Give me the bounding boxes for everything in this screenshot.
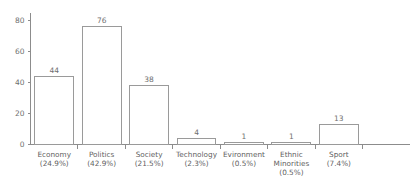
category-label: (24.9%) (40, 159, 69, 168)
x-axis (31, 145, 411, 149)
category-axis-labels: Economy(24.9%)Politics(42.9%)Society(21.… (37, 150, 351, 177)
bar (177, 138, 216, 144)
category-label: Sport (329, 150, 349, 159)
bar-value-label: 76 (97, 16, 107, 25)
category-label: (0.5%) (232, 159, 256, 168)
bar (82, 26, 121, 144)
bar-value-label: 1 (289, 132, 294, 141)
y-axis-tick-label: 60 (15, 47, 25, 56)
y-axis-tick-label: 80 (15, 16, 25, 25)
category-label: Politics (89, 150, 115, 159)
bar (225, 143, 264, 145)
category-label: Technology (175, 150, 218, 159)
category-label: Economy (37, 150, 71, 159)
y-axis: 020406080 (15, 13, 31, 150)
chart-canvas: 020406080 44763841113 Economy(24.9%)Poli… (0, 0, 415, 187)
category-label: (42.9%) (87, 159, 116, 168)
category-label: Evironment (223, 150, 265, 159)
bar-value-label: 38 (144, 75, 154, 84)
category-label: (21.5%) (135, 159, 164, 168)
category-label: (7.4%) (327, 159, 351, 168)
category-label: Minorities (274, 159, 310, 168)
y-axis-tick-label: 0 (20, 140, 25, 149)
category-label: (0.5%) (279, 168, 303, 177)
bar-value-label: 44 (49, 66, 59, 75)
bar-chart-figure: 020406080 44763841113 Economy(24.9%)Poli… (0, 0, 415, 187)
category-label: Society (136, 150, 163, 159)
bar (130, 85, 169, 144)
bar-value-label: 1 (242, 132, 247, 141)
bar (319, 124, 358, 144)
bar-value-label: 4 (194, 128, 199, 137)
bar (35, 76, 74, 144)
bar (272, 143, 311, 145)
category-label: (2.3%) (184, 159, 208, 168)
bar-value-label: 13 (334, 114, 344, 123)
y-axis-tick-label: 40 (15, 78, 25, 87)
y-axis-tick-label: 20 (15, 109, 25, 118)
category-label: Ethnic (280, 150, 303, 159)
bars-series (35, 26, 359, 144)
